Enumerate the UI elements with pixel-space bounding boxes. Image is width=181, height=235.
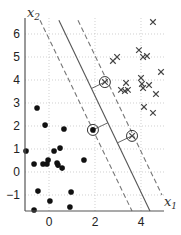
axes	[25, 18, 164, 211]
cross-point	[136, 47, 142, 53]
margin-line	[40, 20, 132, 211]
grid-lines	[25, 18, 164, 211]
y-tick-label: 6	[13, 27, 20, 41]
cross-point	[123, 80, 129, 86]
cross-point	[139, 81, 145, 87]
dot-point	[59, 165, 65, 171]
cross-point	[146, 82, 152, 88]
cross-point	[150, 110, 156, 116]
cross-point	[102, 79, 108, 85]
cross-point	[140, 85, 146, 91]
y-tick-label: 2	[13, 119, 20, 133]
dot-point	[67, 204, 73, 210]
data-points	[23, 19, 164, 213]
margin-line	[78, 20, 162, 195]
dot-point	[34, 105, 40, 111]
y-tick-label: 4	[13, 73, 20, 87]
y-tick-label: 0	[13, 165, 20, 179]
dot-point	[31, 207, 37, 213]
dot-point	[51, 148, 57, 154]
dot-point	[81, 157, 87, 163]
y-tick-label: 5	[13, 50, 20, 64]
dot-point	[42, 122, 48, 128]
dot-point	[45, 157, 51, 163]
dot-point	[35, 188, 41, 194]
x-tick-label: 0	[46, 215, 53, 229]
svm-scatter-chart: −10123456024 x2 x1	[0, 0, 181, 235]
x-tick-label: 2	[92, 215, 99, 229]
cross-point	[141, 104, 147, 110]
y-tick-label: 3	[13, 96, 20, 110]
x-tick-label: 4	[138, 215, 145, 229]
y-axis-label: x2	[27, 5, 40, 22]
dot-point	[47, 198, 53, 204]
dot-point	[57, 145, 63, 151]
cross-point	[158, 69, 164, 75]
cross-point	[144, 53, 150, 59]
dot-point	[31, 161, 37, 167]
cross-point	[150, 19, 156, 25]
y-tick-label: −1	[6, 188, 20, 202]
cross-point	[153, 91, 159, 97]
dot-point	[23, 148, 29, 154]
support-vector-connector	[117, 136, 132, 143]
dot-point	[68, 189, 74, 195]
hyperplane-lines	[40, 20, 162, 211]
tick-labels: −10123456024	[6, 27, 144, 229]
decision-boundary-line	[59, 20, 150, 211]
x-axis-label: x1	[164, 194, 177, 211]
dot-point	[61, 126, 67, 132]
y-tick-label: 1	[13, 142, 20, 156]
dot-point	[90, 127, 96, 133]
